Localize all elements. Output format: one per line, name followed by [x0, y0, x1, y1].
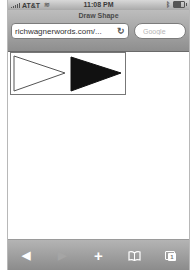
outline-triangle-shape	[14, 56, 65, 91]
battery-icon	[173, 1, 185, 8]
search-input[interactable]	[134, 23, 186, 39]
page-title: Draw Shape	[8, 12, 189, 19]
status-time: 11:08 PM	[8, 1, 189, 8]
bookmarks-button[interactable]	[123, 246, 147, 266]
forward-button[interactable]: ▶	[50, 246, 74, 266]
url-field[interactable]: richwagnerwords.com/... ↻	[11, 23, 129, 39]
plus-icon: +	[94, 247, 103, 264]
filled-triangle-shape	[71, 57, 121, 91]
book-icon	[128, 251, 141, 261]
browser-toolbar: ◀ ▶ + 1	[8, 239, 189, 270]
reload-icon[interactable]: ↻	[117, 26, 125, 36]
back-arrow-icon: ◀	[22, 249, 30, 262]
status-right: ᛒ	[166, 1, 185, 8]
url-text[interactable]: richwagnerwords.com/...	[15, 27, 117, 36]
status-bar: AT&T ≋ 11:08 PM ᛒ	[8, 0, 189, 10]
bluetooth-icon: ᛒ	[166, 1, 170, 8]
pages-count: 1	[168, 253, 176, 261]
drawing-canvas[interactable]	[10, 52, 126, 95]
pages-icon: 1	[165, 251, 177, 261]
back-button[interactable]: ◀	[14, 246, 38, 266]
iphone-screen: AT&T ≋ 11:08 PM ᛒ Draw Shape richwagnerw…	[7, 0, 190, 270]
web-content	[8, 52, 189, 239]
pages-button[interactable]: 1	[159, 246, 183, 266]
canvas-shapes	[11, 53, 127, 96]
browser-nav-bar: Draw Shape richwagnerwords.com/... ↻	[8, 10, 189, 52]
add-bookmark-button[interactable]: +	[86, 246, 110, 266]
forward-arrow-icon: ▶	[58, 249, 66, 262]
